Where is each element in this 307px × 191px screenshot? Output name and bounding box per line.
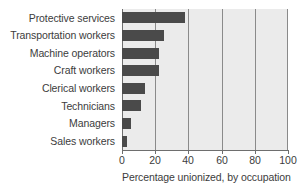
category-label: Sales workers bbox=[0, 132, 119, 150]
category-label: Craft workers bbox=[0, 62, 119, 80]
bar-row bbox=[122, 97, 288, 115]
category-axis-labels: Protective services Transportation worke… bbox=[0, 9, 119, 150]
x-tick-label: 60 bbox=[216, 155, 228, 166]
category-label: Managers bbox=[0, 115, 119, 133]
bar-chart: Protective services Transportation worke… bbox=[0, 0, 307, 191]
x-tick-label: 40 bbox=[182, 155, 194, 166]
bar bbox=[122, 48, 159, 59]
bar bbox=[122, 83, 145, 94]
bar-row bbox=[122, 27, 288, 45]
x-tick-label: 0 bbox=[119, 155, 125, 166]
bar-row bbox=[122, 115, 288, 133]
bar-row bbox=[122, 62, 288, 80]
bar bbox=[122, 100, 141, 111]
x-axis-title: Percentage unionized, by occupation bbox=[122, 172, 289, 183]
bar bbox=[122, 136, 127, 147]
x-axis-line bbox=[122, 150, 289, 151]
bar-row bbox=[122, 44, 288, 62]
bar-series bbox=[122, 9, 288, 150]
bar bbox=[122, 30, 164, 41]
bar bbox=[122, 118, 131, 129]
category-label: Technicians bbox=[0, 97, 119, 115]
bar-row bbox=[122, 132, 288, 150]
bar bbox=[122, 12, 185, 23]
bar-row bbox=[122, 9, 288, 27]
bar-row bbox=[122, 80, 288, 98]
category-label: Clerical workers bbox=[0, 80, 119, 98]
category-label: Machine operators bbox=[0, 44, 119, 62]
x-tick-label: 20 bbox=[149, 155, 161, 166]
x-tick-label: 80 bbox=[249, 155, 261, 166]
plot-area bbox=[122, 9, 288, 150]
category-label: Protective services bbox=[0, 9, 119, 27]
bar bbox=[122, 65, 159, 76]
x-tick-label: 100 bbox=[279, 155, 297, 166]
category-label: Transportation workers bbox=[0, 27, 119, 45]
